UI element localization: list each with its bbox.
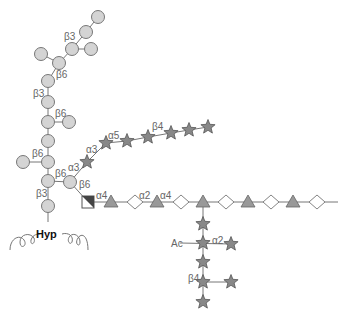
linkage-label: α4 (96, 190, 108, 201)
glcnac-square (82, 196, 94, 208)
linkage-label: α4 (160, 190, 172, 201)
star-icon (120, 134, 134, 148)
links (23, 17, 338, 302)
linkage-label: α5 (108, 130, 120, 141)
star-icon (164, 126, 178, 140)
linkage-label: β6 (56, 69, 68, 80)
linkage-label: β6 (32, 148, 44, 159)
linkage-labels: β3β6β3β6β6β6β3α3α3α5β4β6α4α2α4α2β4 (32, 31, 224, 284)
linkage-label: β4 (188, 273, 200, 284)
star-icon (224, 275, 238, 289)
linkage-label: β6 (55, 108, 67, 119)
acetyl-label: Ac (171, 238, 183, 249)
linkage-label: β6 (55, 168, 67, 179)
linkage-label: β3 (64, 31, 76, 42)
linkage-label: β4 (152, 121, 164, 132)
protein-backbone: Hyp (10, 228, 88, 250)
linkage-label: β3 (36, 188, 48, 199)
star-icon (224, 237, 238, 251)
linkage-label: α3 (68, 162, 80, 173)
linkage-label: α2 (212, 235, 224, 246)
glycan-diagram: Hyp (0, 0, 338, 319)
hyp-label: Hyp (36, 228, 57, 240)
star-icon (201, 120, 215, 134)
star-icon (182, 123, 196, 137)
linkage-label: β3 (33, 88, 45, 99)
glycan-structure-svg: Hyp (0, 0, 338, 319)
star-icon (196, 295, 210, 309)
linkage-label: α2 (139, 190, 151, 201)
linkage-label: α3 (86, 144, 98, 155)
linkage-label: β6 (79, 179, 91, 190)
arabinose-residues (80, 120, 238, 309)
